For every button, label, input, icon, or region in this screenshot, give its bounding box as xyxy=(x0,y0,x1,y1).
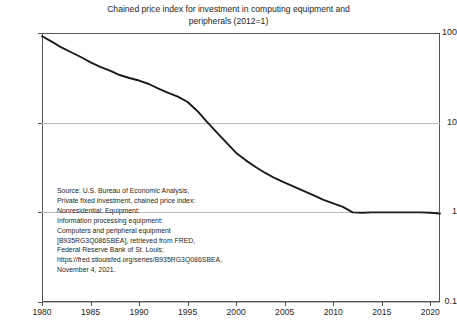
y-axis-tick-1 xyxy=(38,212,42,213)
x-axis-tick-1980 xyxy=(42,302,43,306)
annotation-line-4: Information processing equipment: xyxy=(57,216,222,226)
x-axis-label-1990: 1990 xyxy=(119,307,159,317)
gridline-10 xyxy=(42,123,440,124)
x-axis-tick-2005 xyxy=(285,302,286,306)
annotation-line-8: https://fred.stlouisfed.org/series/B935R… xyxy=(57,255,222,265)
x-axis-tick-1985 xyxy=(91,302,92,306)
x-axis-tick-2000 xyxy=(236,302,237,306)
x-axis-label-1980: 1980 xyxy=(22,307,62,317)
annotation-line-7: Federal Reserve Bank of St. Louis; xyxy=(57,245,222,255)
x-axis-tick-1990 xyxy=(139,302,140,306)
y-axis-label-0.1: 0.1 xyxy=(419,296,457,306)
gridline-0.1 xyxy=(42,302,440,303)
y-axis-label-1: 1 xyxy=(419,206,457,216)
x-axis-tick-2010 xyxy=(333,302,334,306)
source-annotation: Source: U.S. Bureau of Economic Analysis… xyxy=(57,186,222,275)
y-axis-tick-10 xyxy=(38,123,42,124)
annotation-line-9: November 4, 2021. xyxy=(57,265,222,275)
annotation-line-3: Nonresidential: Equipment: xyxy=(57,206,222,216)
chart-title-line-2: peripherals (2012=1) xyxy=(0,15,457,27)
x-axis-label-1985: 1985 xyxy=(71,307,111,317)
x-axis-label-1995: 1995 xyxy=(168,307,208,317)
x-axis-tick-2015 xyxy=(382,302,383,306)
y-axis-tick-100 xyxy=(38,33,42,34)
x-axis-label-2000: 2000 xyxy=(216,307,256,317)
x-axis-label-2020: 2020 xyxy=(410,307,450,317)
chart-title: Chained price index for investment in co… xyxy=(0,3,457,27)
annotation-line-6: [B935RG3Q086SBEA], retrieved from FRED, xyxy=(57,236,222,246)
chart-title-line-1: Chained price index for investment in co… xyxy=(0,3,457,15)
annotation-line-1: Source: U.S. Bureau of Economic Analysis… xyxy=(57,186,222,196)
chart-container: Chained price index for investment in co… xyxy=(0,0,457,329)
annotation-line-5: Computers and peripheral equipment xyxy=(57,226,222,236)
x-axis-label-2015: 2015 xyxy=(362,307,402,317)
x-axis-tick-2020 xyxy=(430,302,431,306)
y-axis-label-100: 100 xyxy=(419,27,457,37)
x-axis-tick-1995 xyxy=(188,302,189,306)
y-axis-label-10: 10 xyxy=(419,117,457,127)
annotation-line-2: Private fixed investment, chained price … xyxy=(57,196,222,206)
x-axis-label-2010: 2010 xyxy=(313,307,353,317)
x-axis-label-2005: 2005 xyxy=(265,307,305,317)
